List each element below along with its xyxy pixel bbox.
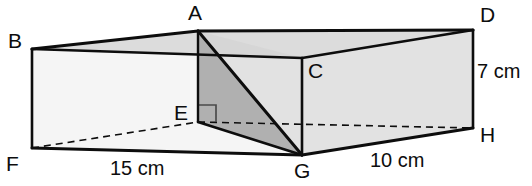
dimension-label-depth: 10 cm [370, 150, 424, 170]
vertex-label-C: C [308, 60, 323, 81]
vertex-label-A: A [188, 2, 202, 23]
dimension-label-width: 15 cm [110, 158, 164, 178]
cuboid-figure: A B C D E F G H 15 cm 10 cm 7 cm [0, 0, 532, 186]
vertex-label-E: E [174, 102, 188, 123]
vertex-label-G: G [294, 160, 310, 181]
edge-A-D [198, 30, 473, 31]
dimension-label-height: 7 cm [477, 61, 520, 81]
vertex-label-B: B [8, 30, 22, 51]
vertex-label-H: H [480, 124, 495, 145]
vertex-label-F: F [6, 153, 19, 174]
vertex-label-D: D [480, 4, 495, 25]
cuboid-diagram-svg [0, 0, 532, 186]
